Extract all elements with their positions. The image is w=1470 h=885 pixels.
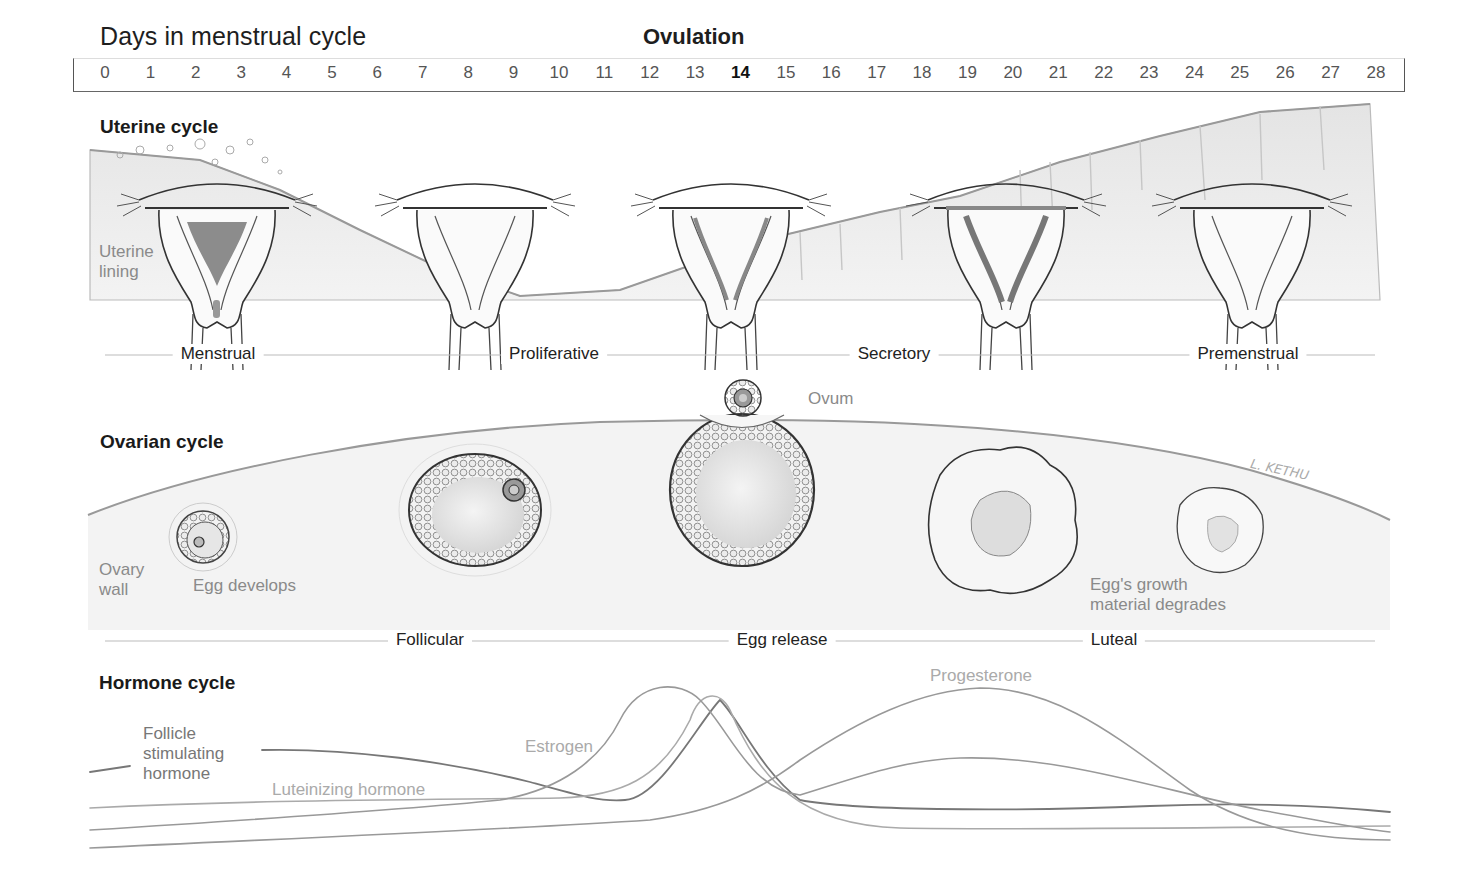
phase-secretory: Secretory bbox=[850, 344, 939, 364]
phase-menstrual: Menstrual bbox=[173, 344, 264, 364]
ovum-illustration bbox=[725, 380, 761, 416]
phase-premenstrual: Premenstrual bbox=[1189, 344, 1306, 364]
ovary-wall-label: Ovary wall bbox=[99, 560, 144, 600]
hormone-curves bbox=[90, 687, 1390, 848]
egg-growth-degrades-label: Egg's growth material degrades bbox=[1090, 575, 1226, 615]
lh-label: Luteinizing hormone bbox=[272, 780, 425, 800]
fsh-label: Follicle stimulating hormone bbox=[143, 724, 224, 784]
uterine-cycle-title: Uterine cycle bbox=[100, 116, 218, 138]
estrogen-label: Estrogen bbox=[525, 737, 593, 757]
hormone-cycle-title: Hormone cycle bbox=[99, 672, 235, 694]
egg-develops-label: Egg develops bbox=[193, 576, 296, 596]
phase-proliferative: Proliferative bbox=[501, 344, 607, 364]
progesterone-label: Progesterone bbox=[930, 666, 1032, 686]
phase-follicular: Follicular bbox=[388, 630, 472, 650]
phase-luteal: Luteal bbox=[1083, 630, 1145, 650]
lh-curve bbox=[90, 696, 1390, 829]
follicle-rupturing-illustration bbox=[670, 414, 814, 566]
uterine-lining-label: Uterine lining bbox=[99, 242, 154, 282]
follicle-early-illustration bbox=[169, 503, 237, 571]
estrogen-curve bbox=[90, 687, 1390, 832]
corpus-luteum-illustration bbox=[929, 447, 1078, 593]
ovum-label: Ovum bbox=[808, 389, 853, 409]
phase-egg-release: Egg release bbox=[729, 630, 836, 650]
ovarian-cycle-title: Ovarian cycle bbox=[100, 431, 224, 453]
corpus-albicans-illustration bbox=[1177, 488, 1263, 573]
progesterone-curve bbox=[90, 688, 1390, 848]
